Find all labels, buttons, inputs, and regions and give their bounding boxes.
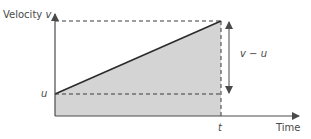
initial-velocity-label: u bbox=[41, 89, 47, 99]
y-axis-label: Velocity v bbox=[3, 10, 51, 20]
velocity-time-graph bbox=[0, 0, 311, 139]
area-under-graph bbox=[55, 21, 221, 116]
y-axis-symbol: v bbox=[45, 9, 51, 20]
difference-label: v − u bbox=[240, 49, 267, 59]
y-axis-label-text: Velocity bbox=[3, 9, 42, 20]
x-axis-label: Time bbox=[276, 123, 300, 133]
time-t-label: t bbox=[218, 123, 222, 133]
